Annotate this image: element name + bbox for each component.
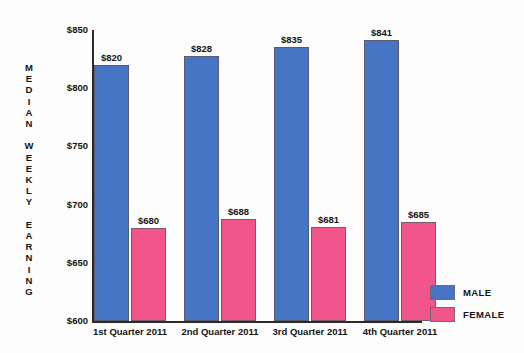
bar-value-label: $680 (138, 215, 159, 226)
bar-male[interactable]: $820 (94, 65, 129, 321)
legend-item[interactable]: MALE (430, 281, 504, 303)
bar-female[interactable]: $688 (221, 219, 256, 321)
bar-group: $820$680 (94, 30, 166, 321)
legend-item[interactable]: FEMALE (430, 303, 504, 325)
bar-female[interactable]: $680 (131, 228, 166, 321)
y-axis-tick-label: $650 (44, 257, 88, 268)
chart-legend: MALEFEMALE (430, 281, 504, 325)
legend-swatch-female (430, 307, 455, 322)
bar-female[interactable]: $681 (311, 227, 346, 321)
x-axis-category-label: 4th Quarter 2011 (346, 326, 454, 337)
bar-value-label: $835 (281, 34, 302, 45)
bar-value-label: $820 (101, 52, 122, 63)
bar-chart: M E D I A N W E E K L Y E A R N I N G $8… (0, 0, 524, 353)
bar-value-label: $681 (318, 214, 339, 225)
bar-group: $841$685 (364, 30, 436, 321)
x-axis-line (92, 321, 422, 323)
plot-area: $820$680$828$688$835$681$841$685 (94, 30, 422, 321)
y-axis-tick-label: $800 (44, 82, 88, 93)
y-axis-title: M E D I A N W E E K L Y E A R N I N G (18, 62, 40, 297)
legend-label: FEMALE (463, 309, 504, 320)
bar-group: $828$688 (184, 30, 256, 321)
bar-male[interactable]: $828 (184, 56, 219, 321)
bar-value-label: $685 (408, 209, 429, 220)
bar-male[interactable]: $841 (364, 40, 399, 321)
bar-value-label: $688 (228, 206, 249, 217)
bar-value-label: $828 (191, 43, 212, 54)
bar-group: $835$681 (274, 30, 346, 321)
y-axis-tick-label: $700 (44, 199, 88, 210)
legend-label: MALE (463, 287, 492, 298)
y-axis-tick-label: $850 (44, 24, 88, 35)
y-axis-tick-label: $600 (44, 315, 88, 326)
legend-swatch-male (430, 285, 455, 300)
bar-value-label: $841 (371, 27, 392, 38)
y-axis-tick-label: $750 (44, 140, 88, 151)
bar-male[interactable]: $835 (274, 47, 309, 321)
